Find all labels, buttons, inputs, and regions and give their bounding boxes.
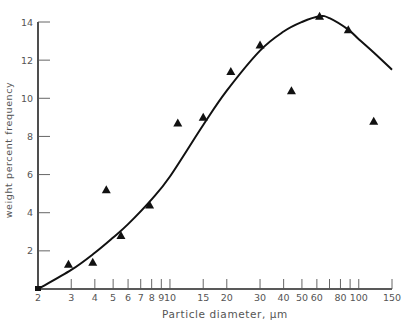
x-tick-label: 30 [254,292,266,303]
x-tick-label: 20 [221,292,233,303]
triangle-marker [173,119,182,127]
curve-path [38,16,392,289]
triangle-marker [369,117,378,125]
origin-marker [35,286,41,291]
x-tick-label: 50 [296,292,308,303]
data-points [64,12,378,268]
triangle-marker [287,86,296,94]
triangle-marker [199,113,208,121]
x-tick-label: 40 [278,292,290,303]
y-axis-label: weight percent frequency [3,82,14,219]
x-tick-label: 3 [68,292,74,303]
x-tick-label: 2 [35,292,41,303]
y-tick-label: 8 [27,131,33,142]
fitted-curve [35,16,392,291]
chart: 2345678910152030405060801001502468101214… [0,0,414,330]
x-tick-label: 8 [149,292,155,303]
x-tick-label: 80 [334,292,346,303]
x-tick-label: 60 [311,292,323,303]
y-tick-label: 2 [27,245,33,256]
triangle-marker [256,40,265,48]
triangle-marker [102,185,111,193]
y-tick-label: 4 [27,207,33,218]
x-tick-label: 5 [110,292,116,303]
x-tick-label: 4 [92,292,98,303]
triangle-marker [88,258,97,266]
x-tick-label: 150 [383,292,401,303]
x-tick-label: 10 [164,292,176,303]
axes [38,22,392,289]
y-tick-label: 6 [27,169,33,180]
y-tick-label: 10 [21,93,33,104]
x-axis-label: Particle diameter, μm [162,308,288,320]
triangle-marker [226,67,235,75]
y-tick-label: 12 [21,55,33,66]
x-tick-label: 6 [125,292,131,303]
y-tick-label: 14 [21,17,33,28]
tick-marks: 2345678910152030405060801001502468101214 [21,17,401,304]
x-tick-label: 15 [197,292,209,303]
triangle-marker [64,260,73,268]
x-tick-label: 7 [138,292,144,303]
x-tick-label: 100 [350,292,368,303]
